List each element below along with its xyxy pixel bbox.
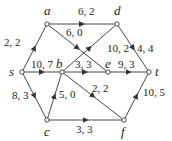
- edge-label: 6, 0: [66, 26, 83, 38]
- node-label-t: t: [155, 64, 159, 79]
- edge-s-c: 8, 3: [12, 72, 47, 120]
- arrow-icon: [132, 46, 133, 48]
- node-label-s: s: [9, 64, 14, 79]
- node-label-e: e: [105, 56, 111, 71]
- arrow-icon: [88, 48, 90, 49]
- node-s: [20, 70, 24, 74]
- node-a: [45, 22, 49, 26]
- edge-c-f: 3, 3: [47, 120, 124, 135]
- node-label-b: b: [56, 56, 63, 71]
- arrow-icon: [54, 96, 55, 98]
- edge-e-t: 9, 3: [108, 58, 149, 72]
- edge-f-t: 10, 5: [124, 72, 166, 120]
- node-label-f: f: [121, 124, 127, 139]
- arrow-icon: [34, 48, 35, 50]
- node-t: [147, 70, 151, 74]
- edge-label: 8, 3: [12, 89, 29, 101]
- edge-label: 3, 3: [75, 58, 92, 70]
- edge-label: 5, 0: [59, 88, 76, 100]
- edge-label: 2, 2: [4, 36, 21, 48]
- arrow-icon: [136, 96, 137, 98]
- node-label-a: a: [44, 3, 51, 18]
- edge-b-e: 3, 3: [62, 58, 108, 72]
- arrow-icon: [91, 95, 93, 96]
- flow-network-diagram: 2, 26, 26, 010, 24, 410, 73, 39, 38, 35,…: [0, 0, 172, 141]
- arrow-icon: [76, 47, 78, 48]
- edge-label: 2, 2: [92, 82, 109, 94]
- edge-label: 6, 2: [78, 5, 95, 17]
- edge-label: 9, 3: [118, 58, 135, 70]
- arrow-icon: [34, 94, 35, 96]
- edge-a-d: 6, 2: [47, 5, 117, 24]
- edge-label: 10, 7: [31, 58, 54, 70]
- node-c: [45, 118, 49, 122]
- edge-label: 4, 4: [137, 42, 154, 54]
- edge-label: 10, 5: [143, 86, 166, 98]
- node-label-d: d: [114, 3, 121, 18]
- edge-label: 3, 3: [76, 123, 93, 135]
- node-f: [122, 118, 126, 122]
- edge-label: 10, 2: [107, 42, 129, 54]
- node-label-c: c: [44, 124, 50, 139]
- node-d: [115, 22, 119, 26]
